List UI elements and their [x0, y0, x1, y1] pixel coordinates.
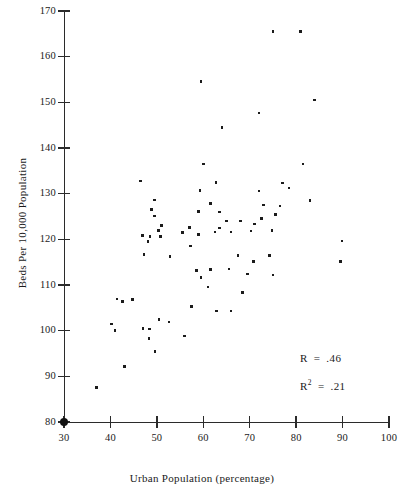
- data-point: [209, 202, 212, 205]
- data-point: [110, 323, 113, 326]
- data-point: [207, 286, 210, 289]
- data-point: [197, 210, 200, 213]
- data-point: [281, 182, 284, 185]
- data-point: [225, 220, 228, 223]
- data-point: [341, 240, 344, 243]
- data-point: [200, 80, 203, 83]
- data-point: [116, 298, 119, 301]
- data-point: [148, 328, 151, 331]
- data-point: [262, 204, 265, 207]
- data-point: [258, 112, 261, 115]
- data-point: [202, 163, 205, 166]
- data-point: [169, 255, 172, 258]
- y-axis-title: Beds Per 10,000 Population: [16, 138, 28, 308]
- data-point: [189, 245, 192, 248]
- data-point: [148, 337, 151, 340]
- data-point: [131, 298, 134, 301]
- data-point: [157, 229, 160, 232]
- data-point: [313, 99, 316, 102]
- data-point: [150, 208, 153, 211]
- r-squared-operator: =: [318, 380, 325, 392]
- data-point: [142, 327, 145, 330]
- data-point: [271, 229, 274, 232]
- r-squared-value: .21: [331, 380, 346, 392]
- data-point: [197, 233, 200, 236]
- data-point: [268, 254, 271, 257]
- scatter-chart: 8090100110120130140150160170 30405060708…: [0, 0, 404, 497]
- correlation-operator: =: [314, 352, 321, 364]
- data-point: [190, 305, 193, 308]
- statistics-annotation: R=.46 R2=.21: [300, 352, 345, 406]
- correlation-annotation: R=.46: [300, 352, 345, 364]
- data-point: [114, 329, 117, 332]
- data-point: [272, 30, 275, 33]
- data-point: [260, 217, 263, 220]
- data-point: [272, 274, 275, 277]
- correlation-value: .46: [326, 352, 341, 364]
- data-points-layer: [0, 0, 404, 497]
- correlation-symbol: R: [300, 352, 308, 364]
- data-point: [215, 310, 218, 313]
- r-squared-exponent: 2: [308, 378, 312, 387]
- data-point: [274, 213, 277, 216]
- data-point: [253, 223, 256, 226]
- data-point: [200, 276, 203, 279]
- data-point: [215, 181, 218, 184]
- data-point: [181, 231, 184, 234]
- data-point: [149, 235, 152, 238]
- data-point: [139, 180, 142, 183]
- data-point: [209, 268, 212, 271]
- data-point: [246, 273, 249, 276]
- data-point: [195, 269, 198, 272]
- x-axis-title: Urban Population (percentage): [0, 472, 404, 484]
- data-point: [199, 189, 202, 192]
- data-point: [183, 335, 186, 338]
- data-point: [221, 126, 224, 129]
- data-point: [95, 386, 98, 389]
- data-point: [279, 205, 282, 208]
- data-point: [214, 231, 217, 234]
- data-point: [153, 215, 156, 218]
- data-point: [154, 350, 157, 353]
- data-point: [188, 226, 191, 229]
- data-point: [241, 291, 244, 294]
- data-point: [237, 254, 240, 257]
- data-point: [309, 199, 312, 202]
- data-point: [123, 365, 126, 368]
- data-point: [339, 260, 342, 263]
- r-squared-annotation: R2=.21: [300, 378, 345, 392]
- data-point: [288, 187, 291, 190]
- data-point: [160, 224, 163, 227]
- data-point: [230, 310, 233, 313]
- data-point: [302, 163, 305, 166]
- data-point: [230, 231, 233, 234]
- data-point: [153, 199, 156, 202]
- data-point: [250, 230, 253, 233]
- data-point: [258, 190, 261, 193]
- r-squared-symbol: R: [300, 380, 308, 392]
- data-point: [143, 253, 146, 256]
- data-point: [228, 268, 231, 271]
- data-point: [218, 211, 221, 214]
- data-point: [239, 220, 242, 223]
- data-point: [141, 234, 144, 237]
- data-point: [147, 240, 150, 243]
- data-point: [252, 260, 255, 263]
- data-point: [218, 227, 221, 230]
- data-point: [168, 321, 171, 324]
- data-point: [121, 300, 124, 303]
- data-point: [299, 30, 302, 33]
- data-point: [158, 318, 161, 321]
- data-point: [159, 235, 162, 238]
